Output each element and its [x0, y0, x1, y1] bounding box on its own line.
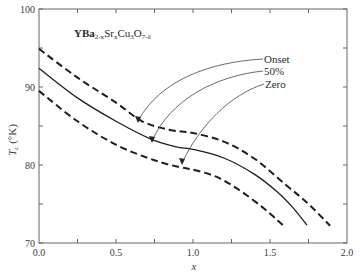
x-tick-label: 1.0 [187, 247, 200, 258]
y-axis-label: Tc (°K) [6, 124, 20, 156]
chart-title: YBa2-xSrxCu3O7-δ [74, 27, 152, 41]
series-layer [39, 49, 330, 228]
x-tick-label: 2.0 [341, 247, 354, 258]
x-axis-label: x [191, 260, 197, 272]
onset-label: Onset [264, 53, 290, 65]
onset-curve [39, 49, 330, 226]
y-tick-label: 90 [25, 82, 35, 93]
y-tick-label: 80 [25, 160, 35, 171]
chart: 0.00.51.01.52.0 708090100 YBa2-xSrxCu3O7… [0, 0, 360, 276]
zero-arrow [182, 84, 264, 163]
y-tick-label: 70 [25, 238, 35, 249]
y-tick-label: 100 [20, 4, 35, 15]
x-tick-label: 0.5 [110, 247, 123, 258]
zero-arrowhead-icon [179, 158, 185, 165]
fifty-percent-arrowhead-icon [149, 136, 155, 143]
zero-curve [39, 91, 285, 228]
y-axis: 708090100 [20, 4, 347, 249]
x-tick-label: 1.5 [264, 247, 277, 258]
fifty-percent-label: 50% [264, 65, 284, 77]
annotation-layer: Onset 50% Zero [135, 53, 290, 165]
zero-label: Zero [265, 78, 286, 90]
fifty-percent-curve [39, 68, 307, 225]
